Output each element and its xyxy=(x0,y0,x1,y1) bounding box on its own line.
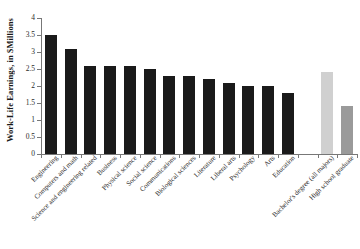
bar xyxy=(84,66,96,154)
x-axis-labels: EngineeringComputers and mathScience and… xyxy=(0,154,360,249)
bar xyxy=(183,76,195,154)
bar xyxy=(321,72,333,154)
bar xyxy=(65,49,77,154)
y-axis-tick-label: 0.5 xyxy=(26,132,35,141)
y-axis-tick-label: 2.5 xyxy=(26,64,35,73)
y-axis-tick-mark xyxy=(37,35,41,36)
y-axis-line xyxy=(41,18,42,154)
y-axis-tick-label: 1.5 xyxy=(26,98,35,107)
y-axis-tick-label: 3 xyxy=(31,47,35,56)
y-axis-tick-mark xyxy=(37,137,41,138)
plot-area: 00.511.522.533.54 xyxy=(41,18,357,154)
y-axis-title: Work-Life Earnings, in $Millions xyxy=(0,0,20,160)
y-axis-tick-label: 4 xyxy=(31,13,35,22)
y-axis-tick-mark xyxy=(37,103,41,104)
bar xyxy=(144,69,156,154)
bar xyxy=(262,86,274,154)
bar-chart: Work-Life Earnings, in $Millions 00.511.… xyxy=(0,0,360,249)
bar xyxy=(124,66,136,154)
x-axis-label: Arts xyxy=(263,154,277,168)
bar xyxy=(341,106,353,154)
bar xyxy=(45,35,57,154)
y-axis-tick-mark xyxy=(37,69,41,70)
y-axis-tick-label: 1 xyxy=(31,115,35,124)
y-axis-tick-label: 3.5 xyxy=(26,30,35,39)
bar xyxy=(242,86,254,154)
y-axis-tick-mark xyxy=(37,120,41,121)
y-axis-tick-mark xyxy=(37,52,41,53)
y-axis-title-text: Work-Life Earnings, in $Millions xyxy=(5,18,15,142)
y-axis-tick-label: 2 xyxy=(31,81,35,90)
y-axis-tick-mark xyxy=(37,18,41,19)
bar xyxy=(282,93,294,154)
bar xyxy=(203,79,215,154)
bar xyxy=(104,66,116,154)
y-axis-tick-mark xyxy=(37,86,41,87)
bar xyxy=(223,83,235,154)
bar xyxy=(163,76,175,154)
